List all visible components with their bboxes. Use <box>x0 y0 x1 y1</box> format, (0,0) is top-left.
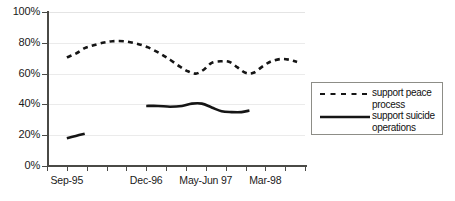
x-tick-7 <box>186 166 187 171</box>
x-tick-0 <box>47 166 48 171</box>
x-tick-8 <box>206 166 207 171</box>
chart-legend: support peace process support suicide op… <box>311 82 443 135</box>
x-axis-label-mar-98: Mar-98 <box>225 174 305 186</box>
legend-row-suicide: support suicide operations <box>312 112 442 136</box>
y-axis-label-60: 60% <box>0 67 40 79</box>
series-solid-segment-0 <box>67 134 85 139</box>
y-axis-label-40: 40% <box>0 97 40 109</box>
x-tick-3 <box>107 166 108 171</box>
x-tick-6 <box>166 166 167 171</box>
x-tick-2 <box>87 166 88 171</box>
x-tick-9 <box>226 166 227 171</box>
x-axis-label-sep-95: Sep-95 <box>27 174 107 186</box>
y-axis-label-0: 0% <box>0 159 40 171</box>
x-tick-1 <box>67 166 68 171</box>
legend-label-peace: support peace process <box>372 87 444 110</box>
x-tick-5 <box>146 166 147 171</box>
x-tick-10 <box>246 166 247 171</box>
x-tick-13 <box>305 166 306 171</box>
x-tick-12 <box>285 166 286 171</box>
y-axis-label-80: 80% <box>0 36 40 48</box>
y-axis-label-20: 20% <box>0 128 40 140</box>
series-solid-segment-1 <box>146 103 249 112</box>
series-support-peace-process <box>67 41 297 74</box>
legend-dashed-line-icon <box>320 89 370 99</box>
y-axis-label-100: 100% <box>0 5 40 17</box>
chart-figure: 100% 80% 60% 40% 20% 0% Sep-95 Dec-96 Ma… <box>0 0 455 201</box>
series-layer <box>47 12 305 166</box>
x-tick-4 <box>126 166 127 171</box>
x-tick-11 <box>265 166 266 171</box>
legend-label-suicide: support suicide operations <box>372 110 444 133</box>
legend-solid-line-icon <box>320 112 370 122</box>
series-support-suicide-operations <box>67 103 250 138</box>
